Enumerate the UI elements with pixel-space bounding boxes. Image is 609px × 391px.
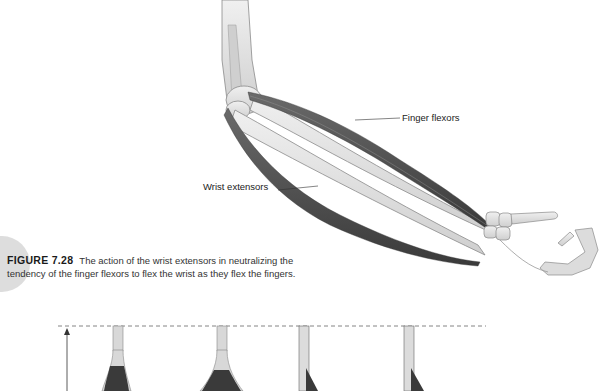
fusiform-muscle-1 [102, 326, 131, 391]
figure-caption: FIGURE 7.28The action of the wrist exten… [7, 254, 307, 280]
unipennate-muscle-1 [299, 326, 318, 391]
fusiform-muscle-2 [200, 326, 243, 391]
finger-flexors-leader [355, 118, 400, 120]
unipennate-muscle-2 [404, 326, 424, 391]
figure-number: FIGURE 7.28 [7, 254, 73, 266]
wrist-extensors-label: Wrist extensors [203, 181, 268, 192]
forearm-illustration [0, 0, 609, 391]
hand-bones [484, 212, 598, 275]
arrow-up-icon [64, 328, 70, 335]
finger-flexors-label: Finger flexors [402, 112, 460, 123]
